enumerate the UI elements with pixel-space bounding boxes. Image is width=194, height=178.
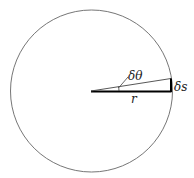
circle-diagram: δθ r δs xyxy=(0,0,194,178)
angle-label: δθ xyxy=(128,69,143,83)
arc-length-label: δs xyxy=(174,80,187,94)
radius-label: r xyxy=(131,92,138,106)
